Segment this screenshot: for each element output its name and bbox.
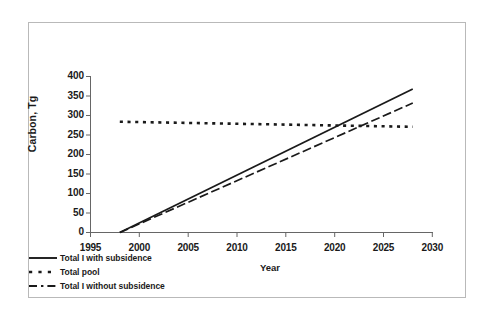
- y-tick-label-0: 0: [50, 227, 84, 237]
- legend-item-total-pool: Total pool: [29, 265, 229, 279]
- legend-label-total-i-with-subsidence: Total I with subsidence: [60, 253, 152, 263]
- y-tick-label-50: 50: [50, 208, 84, 218]
- x-tick-label-2030: 2030: [410, 243, 454, 253]
- y-tick-label-100: 100: [50, 188, 84, 198]
- y-tick-label-350: 350: [50, 91, 84, 101]
- legend-item-total-i-without-subsidence: Total I without subsidence: [29, 279, 229, 293]
- y-tick-label-400: 400: [50, 71, 84, 81]
- legend-label-total-pool: Total pool: [60, 267, 99, 277]
- y-tick-label-250: 250: [50, 130, 84, 140]
- x-tick-label-2015: 2015: [264, 243, 308, 253]
- y-axis-title: Carbon, Tg: [26, 79, 38, 169]
- legend-sample-dash-dot-line-icon: [29, 280, 59, 292]
- legend-sample-dotted-line-icon: [29, 266, 59, 278]
- x-tick-label-2025: 2025: [362, 243, 406, 253]
- y-axis-ticks: [86, 77, 90, 233]
- chart-legend: Total I with subsidence Total pool Total…: [29, 251, 229, 293]
- series-line-total-i-without-subsidence: [120, 103, 413, 232]
- legend-item-total-i-with-subsidence: Total I with subsidence: [29, 251, 229, 265]
- legend-label-total-i-without-subsidence: Total I without subsidence: [60, 281, 165, 291]
- series-line-total-pool: [120, 122, 413, 127]
- x-tick-label-2020: 2020: [313, 243, 357, 253]
- legend-sample-solid-line-icon: [29, 252, 59, 264]
- x-axis-ticks: [91, 233, 433, 238]
- y-tick-label-300: 300: [50, 110, 84, 120]
- y-tick-label-200: 200: [50, 149, 84, 159]
- series-line-total-i-with-subsidence: [120, 89, 413, 233]
- y-tick-label-150: 150: [50, 169, 84, 179]
